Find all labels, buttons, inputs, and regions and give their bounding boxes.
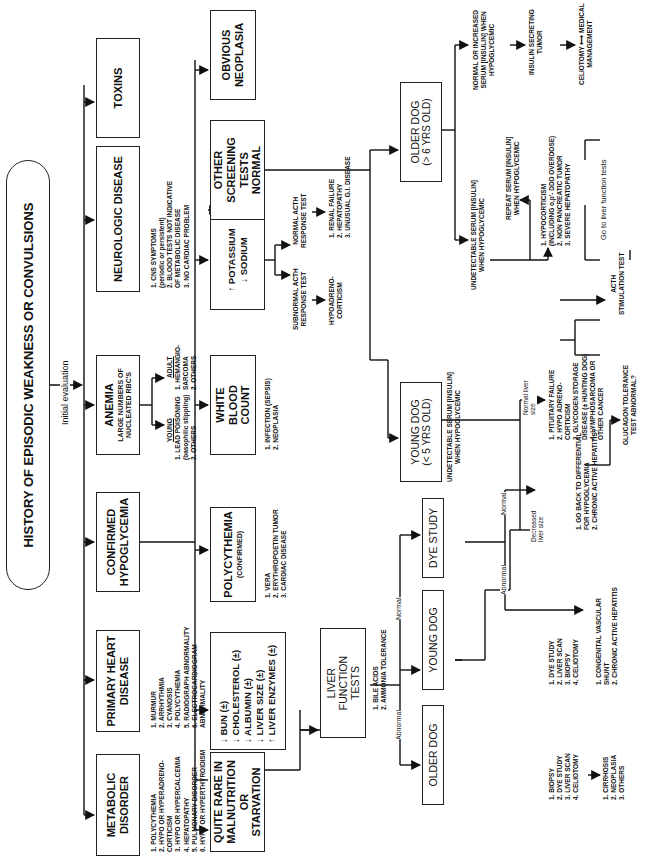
young-heading: YOUNG: [166, 395, 174, 460]
list-item: 4. CELIOTOMY: [572, 753, 580, 800]
young-dog-liver-box: YOUNG DOG: [422, 590, 444, 690]
neurologic-criteria-list: 1. CNS SYMPTOMS (periodic or persistent)…: [150, 181, 191, 288]
polycythemia-list: 1. VERA 2. ERYTHROPOETIN TUMOR 3. CARDIA…: [264, 509, 288, 598]
liver-function-tests-box: LIVER FUNCTION TESTS: [320, 628, 366, 738]
list-item: 2. AMMONIA TOLERANCE: [380, 629, 388, 710]
young-dog-sublabel: (< 5 YRS OLD): [421, 398, 433, 465]
list-item: ↑ LIVER ENZYMES (±): [266, 645, 278, 743]
primary-heart-disease-label: PRIMARY HEART DISEASE: [105, 631, 130, 731]
anemia-box: ANEMIA LARGE NUMBERS OF NUCLEATED RBC'S: [96, 355, 140, 455]
older-dog-liver-tests: 1. BIOPSY 2. DYE STUDY 3. LIVER SCAN 4. …: [548, 753, 581, 800]
anemia-sublabel: LARGE NUMBERS OF NUCLEATED RBC'S: [117, 356, 133, 454]
anemia-young-list: YOUNG 1. LEAD POISONING (basophilic stip…: [166, 395, 199, 460]
text-line: SUBNORMAL ACTH: [292, 268, 300, 330]
list-item: 2. NON PANCREATIC TUMOR: [556, 136, 564, 246]
go-to-liver-function-tests-label: Go to liver function tests: [600, 160, 609, 240]
text-line: CELIOTOMY ⟷ MEDICAL: [578, 3, 586, 85]
sodium-label: ↓ SODIUM: [238, 237, 250, 282]
text-line: WHEN HYPOGLYCEMIC: [454, 372, 462, 482]
list-item: 3. CYANOSIS: [166, 627, 174, 728]
lft-normal-label: Normal: [395, 597, 403, 620]
text-line: Decreased: [530, 511, 537, 542]
list-item: 4. CELIOTOMY: [572, 638, 580, 685]
other-screening-tests-box: OTHER SCREENING TESTS NORMAL: [210, 120, 265, 220]
list-item: 3. SEVERE HEPATOPATHY: [564, 136, 572, 246]
list-item: 1. CIRRHOSIS: [602, 755, 610, 800]
list-item: 2. CHRONIC ACTIVE HEPATITIS?: [591, 428, 599, 530]
text-line: STIMULATION TEST: [618, 253, 626, 315]
list-item: CORTICISM: [166, 750, 174, 852]
list-item: 6. HYPO OR HYPERTHYROIDISM: [199, 750, 207, 852]
text-line: WHEN HYPOGLYCEMIC: [478, 180, 486, 290]
list-item: 4. POLYCYTHEMIA: [174, 627, 182, 728]
list-item: 1. GO BACK TO DIFFERENTIAL: [575, 428, 583, 530]
dye-normal-label: Normal: [500, 492, 508, 515]
text-line: HYPOADRENO-: [328, 276, 336, 325]
list-item: 1. HYPOCORTICISM: [540, 136, 548, 246]
text-line: TUMOR: [536, 9, 544, 75]
dye-abnormal-label: Abnormal: [500, 565, 508, 595]
list-item: 3. LIVER SCAN: [564, 753, 572, 800]
list-item: (periodic or persistent): [158, 181, 166, 288]
polycythemia-sublabel: (CONFIRMED): [236, 531, 244, 578]
list-item: (basophilic stippling): [182, 395, 190, 460]
text-line: UNDETECTABLE SERUM [INSULIN]: [446, 372, 454, 482]
toxins-box: TOXINS: [96, 38, 140, 138]
list-item: 1. CONGENITAL VASCULAR: [595, 587, 603, 685]
list-item: 3. CARDIAC DISEASE: [280, 509, 288, 598]
electrolytes-box: ↑ POTASSIUM ↓ SODIUM: [210, 210, 265, 310]
list-item: 3. NO CARDIAC PROBLEM: [183, 181, 191, 288]
list-item: (INCLUDING o,p'- DDD OVERDOSE): [548, 136, 556, 246]
anemia-label: ANEMIA: [103, 383, 116, 426]
text-line: Normal liver: [522, 380, 529, 415]
list-item: ↓ LIVER SIZE (±): [254, 670, 266, 743]
text-line: NORMAL ACTH: [292, 193, 300, 248]
list-item: 2. NEOPLASIA: [610, 755, 618, 800]
starvation-label: QUITE RARE IN MALNUTRITION OR STARVATION: [212, 753, 263, 851]
starvation-box: QUITE RARE IN MALNUTRITION OR STARVATION: [210, 752, 265, 852]
text-line: RESPONSE TEST: [300, 268, 308, 330]
older-dog-liver-label: OLDER DOG: [427, 724, 439, 787]
list-item: SARCOMA: [182, 345, 190, 390]
list-item: 1. RENAL FAILURE: [328, 156, 336, 238]
list-item: 1. POLYCYTHEMIA: [150, 750, 158, 852]
decreased-liver-size-label: Decreased liver size: [530, 511, 545, 542]
hypoadrenocorticism-result: HYPOADRENO- CORTICISM: [328, 276, 344, 325]
liver-signs-box: ↓ BUN (±) ↓ CHOLESTEROL (±) ↓ ALBUMIN (±…: [210, 632, 286, 750]
heart-list: 1. MURMUR 2. ARRHYTHMIA 3. CYANOSIS 4. P…: [150, 627, 207, 728]
list-item: 1. CNS SYMPTOMS: [150, 181, 158, 288]
older-dog-sublabel: (> 6 YRS OLD): [421, 98, 433, 165]
list-item: FOR HYPOGLYCEMIA: [583, 428, 591, 530]
page-title: HISTORY OF EPISODIC WEAKNESS OR CONVULSI…: [6, 160, 50, 590]
older-dog-age-box: OLDER DOG (> 6 YRS OLD): [400, 82, 442, 182]
potassium-label: ↑ POTASSIUM: [226, 228, 238, 291]
list-item: 2. ERYTHROPOETIN TUMOR: [272, 509, 280, 598]
initial-evaluation-label: Initial evaluation: [60, 360, 70, 425]
list-item: 1. BILE ACIDS: [372, 629, 380, 710]
list-item: 1. BIOPSY: [548, 753, 556, 800]
neurologic-disease-box: NEUROLOGIC DISEASE: [96, 146, 140, 292]
list-item: DISEASE (± HUNTING DOG): [581, 354, 589, 440]
lft-abnormal-label: Abnormal: [395, 710, 403, 740]
young-dog-liver-results: 1. CONGENITAL VASCULAR SHUNT 2. CHRONIC …: [595, 587, 619, 685]
young-dog-age-box: YOUNG DOG (< 5 YRS OLD): [400, 382, 442, 482]
text-line: size: [529, 380, 536, 415]
list-item: 3. BIOPSY: [564, 638, 572, 685]
list-item: 2. LIVER SCAN: [556, 638, 564, 685]
wbc-list: 1. INFECTION (SEPSIS) 2. NEOPLASIA: [264, 378, 280, 450]
liver-function-tests-label: LIVER FUNCTION TESTS: [325, 629, 361, 737]
text-line: TEST ABNORMAL?: [630, 365, 638, 445]
list-item: 1. LEAD POISONING: [174, 395, 182, 460]
list-item: 3. HYPO OR HYPERCALCEMIA: [174, 750, 182, 852]
white-blood-count-label: WHITE BLOOD COUNT: [214, 356, 252, 454]
list-item: 2. HEPATOPATHY: [336, 156, 344, 238]
list-item: 1. MURMUR: [150, 627, 158, 728]
obvious-neoplasia-label: OBVIOUS NEOPLASIA: [220, 11, 245, 99]
anemia-adult-list: ADULT 1. HEMANGIO- SARCOMA 2. OTHERS: [166, 345, 199, 390]
text-line: WHEN HYPOGLYCEMIC: [513, 137, 521, 220]
list-item: 2. HYPO OR HYPERADRENO-: [158, 750, 166, 852]
toxins-label: TOXINS: [112, 68, 125, 109]
text-line: CORTICISM: [336, 276, 344, 325]
metabolic-list: 1. POLYCYTHEMIA 2. HYPO OR HYPERADRENO- …: [150, 750, 207, 852]
metabolic-disorder-label: METABOLIC DISORDER: [105, 755, 130, 855]
